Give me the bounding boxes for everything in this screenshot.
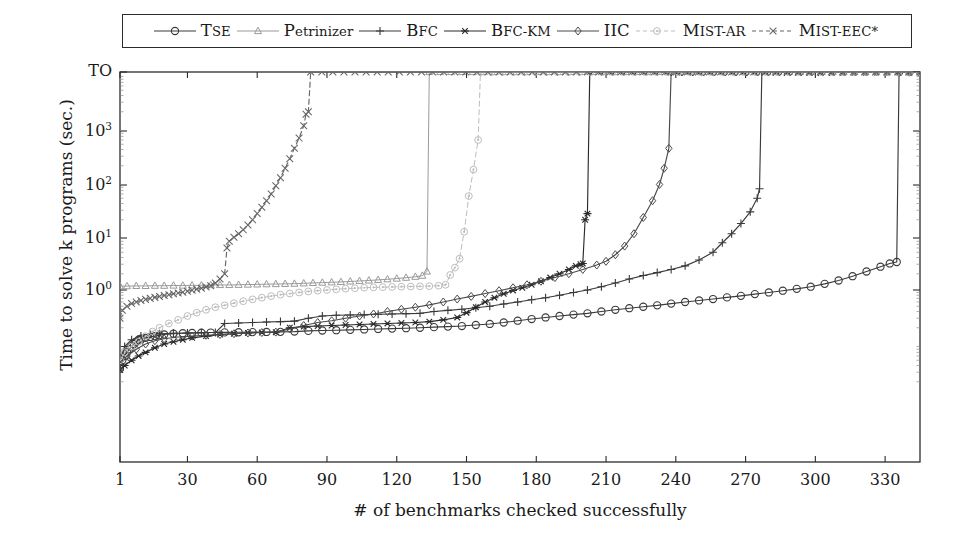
series-bfc-km [116, 69, 924, 373]
axis-ticks [120, 72, 920, 462]
series-mist-ar [117, 69, 924, 364]
series-petrinizer [117, 68, 924, 289]
plot-frame [120, 72, 920, 462]
series-iic [117, 68, 923, 369]
chart-page: TSEPetrinizerBFCBFC-KMIICMIST-ARMIST-EEC… [0, 0, 958, 543]
series-tse [116, 68, 923, 372]
series-bfc [116, 68, 924, 364]
plot-area [0, 0, 958, 543]
